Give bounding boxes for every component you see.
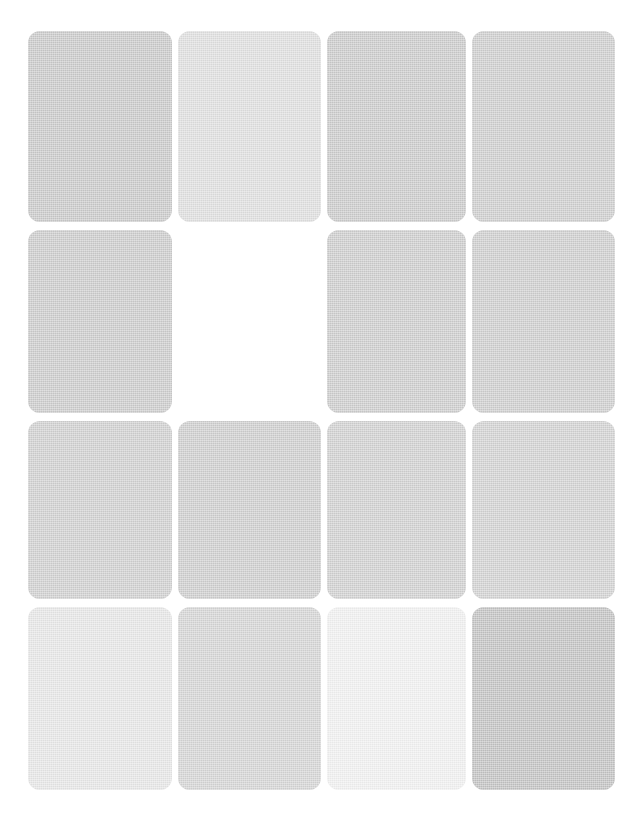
placeholder-card[interactable] xyxy=(472,607,615,790)
placeholder-card[interactable] xyxy=(178,421,321,599)
page-canvas xyxy=(0,0,642,836)
placeholder-card[interactable] xyxy=(327,31,466,222)
placeholder-card[interactable] xyxy=(178,607,321,790)
placeholder-card[interactable] xyxy=(327,607,466,790)
placeholder-card-empty-slot xyxy=(178,230,321,413)
placeholder-card-grid xyxy=(28,31,614,790)
placeholder-card[interactable] xyxy=(327,421,466,599)
placeholder-card[interactable] xyxy=(28,607,172,790)
placeholder-card[interactable] xyxy=(178,31,321,222)
placeholder-card[interactable] xyxy=(472,230,615,413)
placeholder-card[interactable] xyxy=(28,421,172,599)
placeholder-card[interactable] xyxy=(327,230,466,413)
placeholder-card[interactable] xyxy=(472,31,615,222)
placeholder-card[interactable] xyxy=(28,31,172,222)
placeholder-card[interactable] xyxy=(28,230,172,413)
placeholder-card[interactable] xyxy=(472,421,615,599)
